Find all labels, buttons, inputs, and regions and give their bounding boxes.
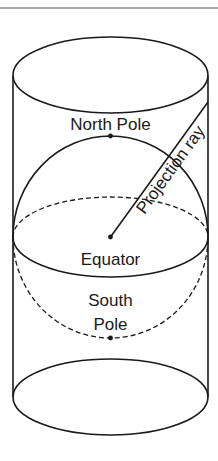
south-pole-point [108, 336, 113, 341]
north-pole-point [108, 134, 113, 139]
equator-label: Equator [81, 250, 141, 269]
cylinder-top-ellipse [13, 37, 208, 113]
equator-back-arc [13, 197, 208, 237]
cylinder-bottom-ellipse [13, 359, 208, 435]
south-pole-label-line1: South [88, 291, 132, 310]
south-pole-label-line2: Pole [93, 315, 127, 334]
north-pole-label: North Pole [70, 115, 150, 134]
projection-ray-label: Projection ray [132, 122, 209, 218]
center-point [108, 235, 113, 240]
cylindrical-projection-diagram: North Pole Projection ray Equator South … [0, 0, 218, 461]
